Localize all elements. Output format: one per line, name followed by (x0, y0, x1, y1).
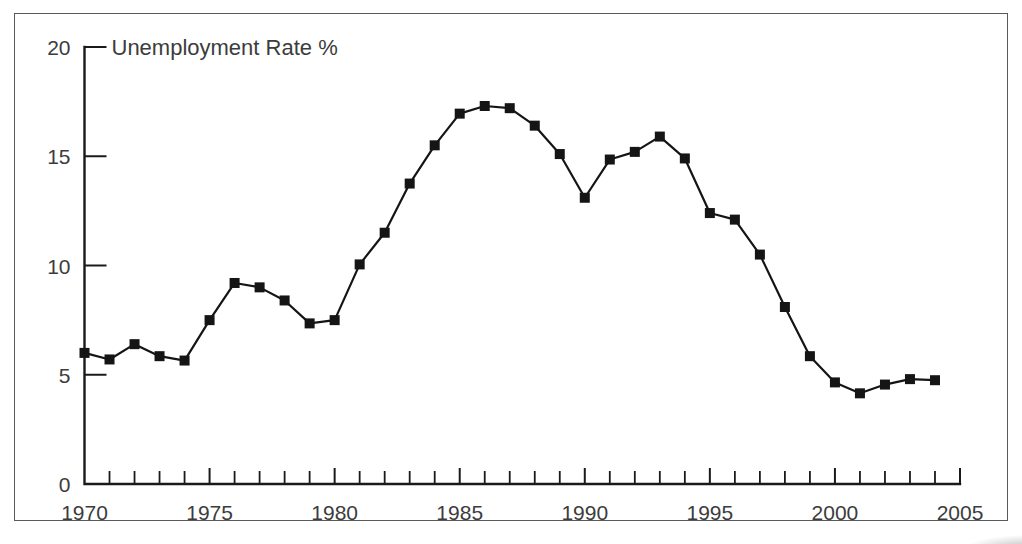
chart-title-group: Unemployment Rate % (112, 35, 338, 60)
x-axis-tick-label: 2000 (812, 501, 859, 524)
data-point-marker (455, 109, 465, 119)
x-axis-tick-label: 1990 (561, 501, 608, 524)
data-point-marker (255, 282, 265, 292)
y-axis-tick-labels: 05101520 (47, 36, 70, 496)
data-point-marker (330, 315, 340, 325)
data-point-marker (530, 121, 540, 131)
data-point-marker (305, 318, 315, 328)
y-axis-tick-label: 10 (47, 255, 70, 278)
data-point-marker (905, 374, 915, 384)
tick-marks-group (85, 47, 961, 484)
data-point-marker (480, 101, 490, 111)
data-point-marker (405, 179, 415, 189)
data-point-marker (830, 377, 840, 387)
data-point-marker (730, 215, 740, 225)
data-point-marker (230, 278, 240, 288)
data-point-marker (180, 356, 190, 366)
data-point-marker (280, 295, 290, 305)
x-axis-tick-label: 1970 (61, 501, 108, 524)
x-axis-tick-label: 1995 (686, 501, 733, 524)
data-point-marker (380, 228, 390, 238)
data-point-marker (755, 250, 765, 260)
data-point-marker (805, 351, 815, 361)
data-point-marker (580, 193, 590, 203)
x-axis-tick-label: 1975 (186, 501, 233, 524)
x-axis-tick-labels: 19701975198019851990199520002005 (61, 501, 983, 524)
data-point-marker (155, 351, 165, 361)
data-point-marker (355, 259, 365, 269)
y-axis-tick-label: 5 (59, 364, 71, 387)
data-point-marker (630, 147, 640, 157)
data-point-marker (555, 149, 565, 159)
data-point-marker (855, 388, 865, 398)
data-point-marker (880, 380, 890, 390)
chart-canvas: 05101520 1970197519801985199019952000200… (0, 0, 1022, 544)
x-axis-tick-label: 2005 (937, 501, 984, 524)
data-series-group (80, 101, 940, 398)
axis-lines (85, 47, 961, 484)
chart-title: Unemployment Rate % (112, 35, 338, 60)
series-polyline (85, 106, 935, 393)
y-axis-tick-label: 0 (59, 473, 71, 496)
x-axis-tick-label: 1980 (311, 501, 358, 524)
data-point-marker (205, 315, 215, 325)
data-point-marker (705, 208, 715, 218)
data-point-marker (680, 153, 690, 163)
chart-figure: 05101520 1970197519801985199019952000200… (0, 0, 1022, 544)
data-point-marker (430, 140, 440, 150)
data-point-marker (505, 103, 515, 113)
data-point-marker (130, 339, 140, 349)
x-axis-tick-label: 1985 (436, 501, 483, 524)
y-axis-tick-label: 20 (47, 36, 70, 59)
y-axis-tick-label: 15 (47, 145, 70, 168)
data-point-marker (105, 354, 115, 364)
data-point-marker (780, 302, 790, 312)
data-point-marker (605, 155, 615, 165)
data-point-marker (655, 132, 665, 142)
data-point-marker (80, 348, 90, 358)
data-point-marker (930, 375, 940, 385)
axes-group (85, 47, 961, 484)
